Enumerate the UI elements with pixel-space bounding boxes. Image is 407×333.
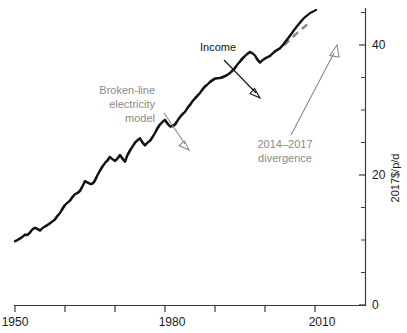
annotation-model-line3: model (125, 112, 155, 124)
x-tick-label-2010: 2010 (309, 315, 336, 329)
y-tick-label-0: 0 (372, 298, 379, 312)
y-tick-label-20: 20 (372, 168, 386, 182)
annotation-income-label: Income (200, 41, 236, 53)
annotation-model-line1: Broken-line (99, 84, 155, 96)
annotation-model-line2: electricity (109, 98, 155, 110)
x-tick-label-1950: 1950 (2, 315, 29, 329)
x-tick-label-1980: 1980 (159, 315, 186, 329)
y-axis-title: 2017$/p/d (389, 154, 401, 203)
annotation-divergence-line2: divergence (258, 152, 312, 164)
annotation-divergence-line1: 2014–2017 (257, 138, 312, 150)
chart-figure: 40 20 0 2017$/p/d 1950 1980 2010 Income (0, 0, 407, 333)
y-tick-label-40: 40 (372, 38, 386, 52)
